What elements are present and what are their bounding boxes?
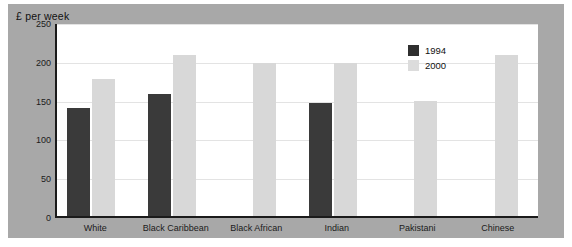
y-tick-label: 100: [17, 135, 51, 145]
y-tick-label: 150: [17, 97, 51, 107]
x-tick-label: Indian: [297, 223, 378, 233]
chart-panel: £ per week 050100150200250 WhiteBlack Ca…: [8, 4, 564, 238]
x-tick-label: Pakistani: [377, 223, 458, 233]
y-tick-label: 0: [17, 213, 51, 223]
legend-item-1994: 1994: [408, 44, 488, 57]
bar-group: [138, 24, 219, 216]
bar-1994: [67, 108, 90, 216]
y-tick-label: 250: [17, 19, 51, 29]
bar-group: [218, 24, 299, 216]
legend-swatch-2000: [408, 60, 419, 71]
y-tick-label: 200: [17, 58, 51, 68]
x-tick-label: Black African: [216, 223, 297, 233]
chart-figure: £ per week 050100150200250 WhiteBlack Ca…: [0, 0, 572, 247]
bar-1994: [309, 103, 332, 216]
legend-label-1994: 1994: [425, 45, 446, 56]
bar-2000: [253, 63, 276, 216]
x-axis-labels: WhiteBlack CaribbeanBlack AfricanIndianP…: [55, 223, 538, 239]
y-tick-label: 50: [17, 174, 51, 184]
y-axis: 050100150200250: [13, 24, 51, 218]
legend-swatch-1994: [408, 45, 419, 56]
bar-2000: [414, 101, 437, 216]
chart-legend: 1994 2000: [408, 44, 488, 74]
bar-group: [57, 24, 138, 216]
x-tick-label: Chinese: [458, 223, 539, 233]
bar-1994: [148, 94, 171, 216]
x-tick-label: White: [55, 223, 136, 233]
bar-2000: [173, 55, 196, 216]
bar-group: [299, 24, 380, 216]
bar-2000: [92, 79, 115, 216]
bar-2000: [495, 55, 518, 216]
x-tick-label: Black Caribbean: [136, 223, 217, 233]
legend-item-2000: 2000: [408, 59, 488, 72]
bar-2000: [334, 63, 357, 216]
legend-label-2000: 2000: [425, 60, 446, 71]
